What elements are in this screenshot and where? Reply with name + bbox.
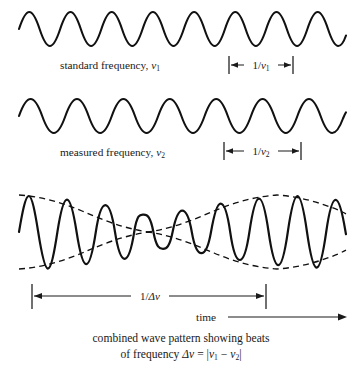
wave-measured-frequency [19,99,346,133]
measure-beat-period: 1/Δν [32,284,266,309]
wave-combined-beats [19,196,346,269]
arrow-left-icon [226,148,233,154]
arrow-right-icon [338,314,347,321]
arrow-right-icon [284,62,291,68]
label-measured-frequency: measured frequency, ν2 [60,146,165,160]
axis-label-time: time [196,311,216,323]
beats-figure: standard frequency, ν1 1/ν1 measured fre… [0,0,362,367]
measure-period-nu2: 1/ν2 [224,142,301,160]
figure-canvas: standard frequency, ν1 1/ν1 measured fre… [0,0,362,367]
wave-standard-frequency [19,12,346,46]
caption-line-1: combined wave pattern showing beats [92,332,270,345]
panel-measured-frequency: measured frequency, ν2 1/ν2 [19,99,346,160]
arrow-right-icon [256,293,264,299]
label-standard-frequency: standard frequency, ν1 [60,59,160,73]
arrow-left-icon [34,293,42,299]
envelope-lower [19,232,346,269]
time-axis: time [196,311,347,323]
measure-label-beat-period: 1/Δν [140,290,160,302]
caption-line-2: of frequency Δν = |ν1 − ν2| [120,348,241,362]
arrow-right-icon [292,148,299,154]
panel-standard-frequency: standard frequency, ν1 1/ν1 [19,12,346,74]
measure-period-nu1: 1/ν1 [229,56,293,74]
figure-caption: combined wave pattern showing beats of f… [92,332,270,362]
panel-combined-beats: 1/Δν time [19,195,347,323]
arrow-left-icon [231,62,238,68]
